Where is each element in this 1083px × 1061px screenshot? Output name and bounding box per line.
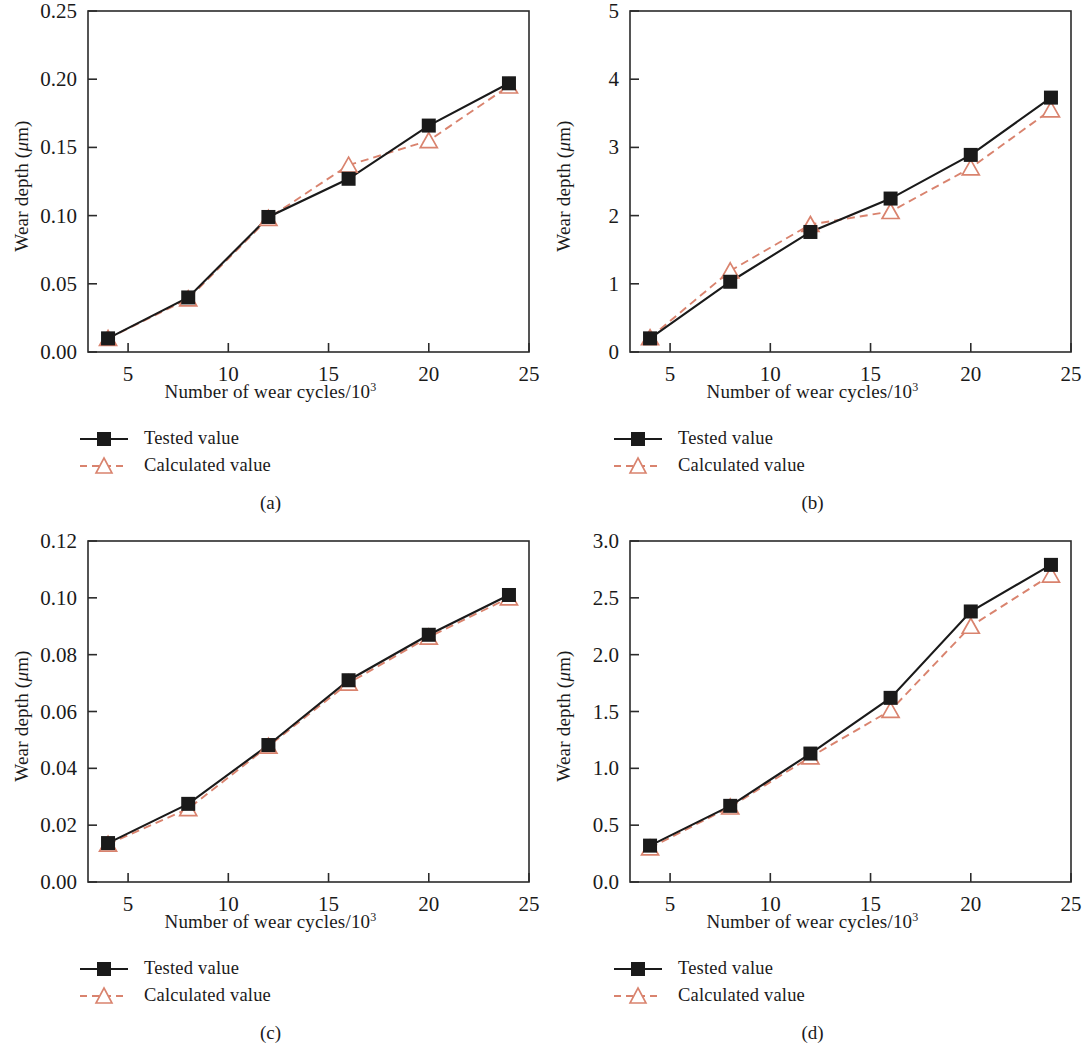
y-axis-tick-label: 0.12 [40,530,77,553]
calculated-value-key-icon [78,455,130,477]
data-point-marker-tested [964,604,978,618]
plot-frame [88,11,529,352]
data-point-marker-tested [643,839,657,853]
panel-a-y-axis-title: Wear depth (μm) [11,86,33,286]
y-axis-tick-label: 0.25 [40,0,77,23]
panel-d-plot: 5101520250.00.51.01.52.02.53.0 [542,530,1083,950]
x-axis-title-text: Number of wear cycles/10 [706,381,912,402]
x-axis-title-exponent: 3 [912,910,918,924]
legend-label-tested: Tested value [678,958,773,979]
y-axis-tick-label: 0.20 [40,67,77,91]
legend-row-calculated: Calculated value [78,982,271,1009]
plot-frame [630,11,1071,352]
y-axis-tick-label: 0.08 [40,643,77,667]
wear-depth-figure: 5101520250.000.050.100.150.200.25 Wear d… [0,0,1083,1061]
data-point-marker-tested [1044,558,1058,572]
panel-caption-a: (a) [0,492,541,514]
data-point-marker-calculated [340,157,357,172]
series-line-calculated [108,86,509,338]
y-axis-tick-label: 0.10 [40,204,77,228]
panel-d-x-axis-title: Number of wear cycles/103 [542,910,1083,933]
y-axis-tick-label: 1.5 [593,700,619,724]
y-axis-tick-label: 2.0 [593,643,619,667]
legend-row-calculated: Calculated value [612,982,805,1009]
x-axis-title-exponent: 3 [370,910,376,924]
panel-c-y-axis-title: Wear depth (μm) [11,616,33,816]
y-axis-tick-label: 0.04 [40,756,77,780]
legend-label-calculated: Calculated value [144,985,271,1006]
y-axis-tick-label: 2 [609,204,620,228]
tested-value-key-icon [612,428,664,450]
data-point-marker-tested [884,192,898,206]
data-point-marker-tested [964,148,978,162]
data-point-marker-tested [101,331,115,345]
y-axis-tick-label: 0.5 [593,813,619,837]
tested-value-key-icon [78,958,130,980]
series-line-tested [108,595,509,843]
data-point-marker-tested [803,747,817,761]
data-point-marker-tested [884,691,898,705]
y-axis-tick-label: 5 [609,0,620,23]
y-axis-tick-label: 0.0 [593,870,619,894]
legend-row-tested: Tested value [78,955,271,982]
y-axis-tick-label: 4 [609,67,620,91]
data-point-marker-tested [261,210,275,224]
y-axis-tick-label: 3 [609,135,620,159]
panel-d-y-axis-title: Wear depth (μm) [553,616,575,816]
panel-b-x-axis-title: Number of wear cycles/103 [542,380,1083,403]
legend-row-calculated: Calculated value [78,452,271,479]
series-line-calculated [650,575,1051,848]
panel-a-svg: 5101520250.000.050.100.150.200.25 [0,0,541,420]
panel-a-legend: Tested value Calculated value [78,425,271,479]
x-axis-title-exponent: 3 [912,380,918,394]
data-point-marker-tested [803,225,817,239]
x-axis-title-exponent: 3 [370,380,376,394]
data-point-marker-calculated [962,160,979,175]
data-point-marker-tested [502,588,516,602]
data-point-marker-tested [342,172,356,186]
data-point-marker-tested [101,836,115,850]
y-axis-tick-label: 0.00 [40,870,77,894]
panel-c-x-axis-title: Number of wear cycles/103 [0,910,541,933]
panel-b: 510152025012345 Wear depth (μm) Number o… [542,0,1083,530]
y-axis-tick-label: 0.15 [40,135,77,159]
y-axis-tick-label: 0.00 [40,340,77,364]
y-axis-tick-label: 0.02 [40,813,77,837]
legend-label-tested: Tested value [678,428,773,449]
tested-value-key-icon [612,958,664,980]
panel-b-svg: 510152025012345 [542,0,1083,420]
panel-c: 5101520250.000.020.040.060.080.100.12 We… [0,530,541,1060]
panel-d-svg: 5101520250.00.51.01.52.02.53.0 [542,530,1083,950]
panel-c-plot: 5101520250.000.020.040.060.080.100.12 [0,530,541,950]
series-line-calculated [650,110,1051,338]
y-axis-tick-label: 3.0 [593,530,619,553]
data-point-marker-tested [181,797,195,811]
series-line-tested [650,565,1051,846]
data-point-marker-tested [502,76,516,90]
legend-row-tested: Tested value [78,425,271,452]
calculated-value-key-icon [78,985,130,1007]
data-point-marker-calculated [962,618,979,633]
panel-d-legend: Tested value Calculated value [612,955,805,1009]
panel-caption-b: (b) [542,492,1083,514]
legend-label-tested: Tested value [144,958,239,979]
legend-label-calculated: Calculated value [678,985,805,1006]
y-axis-tick-label: 0.10 [40,586,77,610]
panel-b-legend: Tested value Calculated value [612,425,805,479]
y-axis-tick-label: 1.0 [593,756,619,780]
x-axis-title-text: Number of wear cycles/10 [164,911,370,932]
panel-d: 5101520250.00.51.01.52.02.53.0 Wear dept… [542,530,1083,1060]
data-point-marker-tested [723,799,737,813]
x-axis-title-text: Number of wear cycles/10 [706,911,912,932]
data-point-marker-tested [422,119,436,133]
data-point-marker-tested [422,628,436,642]
data-point-marker-tested [1044,91,1058,105]
panel-b-y-axis-title: Wear depth (μm) [553,86,575,286]
legend-label-calculated: Calculated value [144,455,271,476]
x-axis-title-text: Number of wear cycles/10 [164,381,370,402]
legend-row-tested: Tested value [612,425,805,452]
data-point-marker-tested [342,673,356,687]
legend-label-calculated: Calculated value [678,455,805,476]
series-line-tested [108,83,509,338]
data-point-marker-calculated [420,133,437,148]
